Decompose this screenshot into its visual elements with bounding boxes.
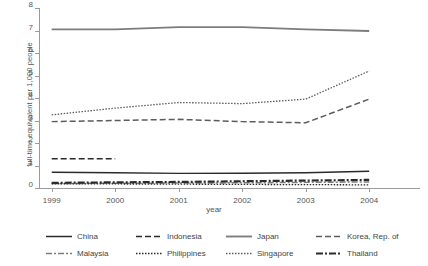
y-tick-label: 5: [17, 72, 33, 73]
x-tick-label: 1999: [32, 196, 72, 205]
x-tick-label: 2001: [159, 196, 199, 205]
legend-item-korea-rep-of[interactable]: Korea, Rep. of: [316, 232, 406, 241]
legend-label: Korea, Rep. of: [347, 232, 399, 241]
legend-swatch: [226, 249, 252, 258]
chart-legend: ChinaIndonesiaJapanKorea, Rep. ofMalaysi…: [46, 228, 406, 262]
legend-label: Japan: [257, 232, 279, 241]
chart-figure: full-time equivalent per 1,000 people 01…: [0, 0, 428, 266]
legend-item-japan[interactable]: Japan: [226, 232, 316, 241]
x-axis-line: [39, 188, 420, 189]
x-tick-label: 2004: [349, 196, 389, 205]
legend-swatch: [136, 249, 162, 258]
legend-item-indonesia[interactable]: Indonesia: [136, 232, 226, 241]
y-tick-label: 1: [17, 162, 33, 163]
series-line-philippines: [52, 184, 370, 185]
x-tick: [369, 188, 370, 192]
x-tick: [52, 188, 53, 192]
y-tick-label: 7: [17, 27, 33, 28]
y-tick-label: 8: [17, 4, 33, 5]
x-tick-label: 2000: [95, 196, 135, 205]
y-tick-label: 0: [17, 184, 33, 185]
x-tick: [242, 188, 243, 192]
series-line-japan: [52, 27, 370, 31]
y-tick-label: 2: [17, 139, 33, 140]
legend-swatch: [316, 232, 342, 241]
y-tick-label: 4: [17, 94, 33, 95]
legend-label: Malaysia: [77, 249, 109, 258]
legend-swatch: [226, 232, 252, 241]
y-tick: [35, 188, 39, 189]
x-tick: [306, 188, 307, 192]
legend-label: Thailand: [347, 249, 378, 258]
legend-label: Singapore: [257, 249, 293, 258]
legend-item-singapore[interactable]: Singapore: [226, 249, 316, 258]
series-lines: [39, 8, 420, 188]
legend-label: Philippines: [167, 249, 206, 258]
legend-label: China: [77, 232, 98, 241]
legend-swatch: [316, 249, 342, 258]
legend-swatch: [46, 249, 72, 258]
legend-item-philippines[interactable]: Philippines: [136, 249, 226, 258]
y-tick-label: 3: [17, 117, 33, 118]
legend-swatch: [46, 232, 72, 241]
plot-area: 012345678 199920002001200220032004: [39, 8, 420, 188]
legend-label: Indonesia: [167, 232, 202, 241]
x-tick-label: 2003: [286, 196, 326, 205]
legend-swatch: [136, 232, 162, 241]
x-tick: [179, 188, 180, 192]
y-tick-label: 6: [17, 49, 33, 50]
legend-item-china[interactable]: China: [46, 232, 136, 241]
legend-item-thailand[interactable]: Thailand: [316, 249, 406, 258]
legend-item-malaysia[interactable]: Malaysia: [46, 249, 136, 258]
x-tick: [115, 188, 116, 192]
x-axis-title: year: [0, 205, 428, 214]
x-tick-label: 2002: [222, 196, 262, 205]
series-line-singapore: [52, 71, 370, 115]
series-line-china: [52, 171, 370, 173]
